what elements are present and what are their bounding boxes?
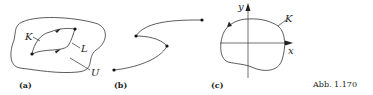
panel-c-label: (c) [211, 80, 224, 90]
curve-segment-2 [136, 36, 167, 46]
panel-c: y x K (c) [211, 1, 294, 90]
panel-a: K L U (a) [11, 18, 105, 90]
panel-a-label: (a) [19, 80, 32, 90]
point-start [30, 52, 33, 55]
region-u-outline [11, 18, 105, 73]
panel-b-label: (b) [114, 80, 127, 90]
x-axis-label: x [288, 45, 294, 56]
label-l: L [80, 43, 88, 54]
point [134, 34, 137, 37]
curve-l [32, 29, 75, 54]
point [200, 18, 203, 21]
point-end [73, 27, 76, 30]
label-k: K [284, 13, 293, 24]
y-axis-label: y [237, 1, 244, 12]
curve-segment-1 [114, 46, 167, 70]
label-u: U [91, 67, 100, 78]
point [165, 44, 168, 47]
figure-canvas: K L U (a) (b) y x K (c) Abb. 1.170 [0, 0, 373, 95]
y-axis-arrow-icon [246, 3, 251, 11]
panel-b: (b) [112, 18, 203, 90]
point [112, 68, 115, 71]
curve-k [221, 19, 285, 71]
label-k: K [24, 31, 33, 42]
figure-caption: Abb. 1.170 [312, 80, 357, 89]
curve-segment-3 [136, 20, 202, 36]
